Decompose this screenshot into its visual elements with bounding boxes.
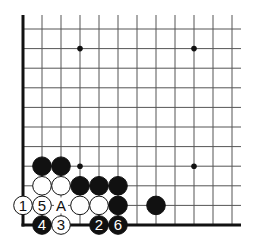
- white-stone: [52, 177, 71, 196]
- star-point-icon: [77, 46, 83, 52]
- star-point-icon: [191, 163, 197, 169]
- move-number-6: 6: [114, 216, 122, 233]
- star-point-icon: [191, 46, 197, 52]
- black-stone: [33, 157, 52, 176]
- black-stone: [109, 177, 128, 196]
- go-board: A154326: [0, 0, 255, 252]
- move-number-2: 2: [95, 216, 103, 233]
- black-stone: [71, 177, 90, 196]
- white-stone: [71, 196, 90, 215]
- star-point-icon: [77, 163, 83, 169]
- move-number-4: 4: [38, 216, 46, 233]
- black-stone: [90, 177, 109, 196]
- black-stone: [52, 157, 71, 176]
- black-stone: [109, 196, 128, 215]
- black-stone: [147, 196, 166, 215]
- move-number-3: 3: [57, 216, 65, 233]
- marker-label-A: A: [56, 197, 66, 214]
- white-stone: [90, 196, 109, 215]
- move-number-1: 1: [19, 197, 27, 214]
- white-stone: [33, 177, 52, 196]
- move-number-5: 5: [38, 197, 46, 214]
